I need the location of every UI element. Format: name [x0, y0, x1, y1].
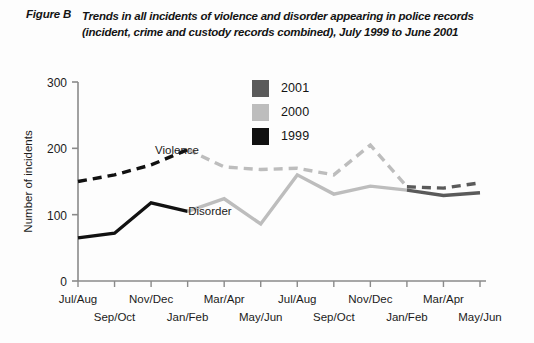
x-tick-label: Mar/Apr — [204, 293, 245, 305]
chart-legend: 2001 2000 1999 — [252, 76, 372, 148]
x-tick-label: May/Jun — [239, 311, 282, 323]
legend-item-2001: 2001 — [252, 76, 372, 100]
line-chart: 0100200300Number of incidentsJul/AugSep/… — [0, 0, 534, 343]
x-tick-label: Nov/Dec — [348, 293, 392, 305]
y-tick-label: 0 — [60, 275, 67, 289]
y-tick-label: 100 — [47, 209, 67, 223]
legend-swatch-1999 — [252, 128, 269, 145]
x-tick-label: Jul/Aug — [278, 293, 316, 305]
series-violence-2000 — [188, 145, 407, 187]
x-tick-label: May/Jun — [458, 311, 501, 323]
legend-label-2001: 2001 — [281, 81, 309, 95]
legend-item-2000: 2000 — [252, 100, 372, 124]
legend-item-1999: 1999 — [252, 124, 372, 148]
x-tick-label: Sep/Oct — [313, 311, 355, 323]
x-tick-label: Nov/Dec — [129, 293, 173, 305]
x-tick-label: Jan/Feb — [386, 311, 428, 323]
violence-label: Violence — [155, 144, 199, 156]
series-violence-2001 — [407, 183, 480, 188]
y-tick-label: 200 — [47, 142, 67, 156]
legend-label-1999: 1999 — [281, 129, 309, 143]
series-disorder-2001 — [407, 190, 480, 195]
figure-container: Figure B Trends in all incidents of viol… — [0, 0, 534, 343]
x-tick-label: Sep/Oct — [94, 311, 136, 323]
series-disorder-1999 — [78, 203, 188, 238]
disorder-label: Disorder — [188, 205, 232, 217]
chart-plot-area: 0100200300Number of incidentsJul/AugSep/… — [0, 0, 534, 343]
x-tick-label: Mar/Apr — [423, 293, 464, 305]
y-axis-title: Number of incidents — [22, 130, 34, 233]
legend-swatch-2000 — [252, 104, 269, 121]
y-tick-label: 300 — [47, 76, 67, 90]
legend-label-2000: 2000 — [281, 105, 309, 119]
legend-swatch-2001 — [252, 80, 269, 97]
x-tick-label: Jan/Feb — [167, 311, 209, 323]
x-tick-label: Jul/Aug — [59, 293, 97, 305]
